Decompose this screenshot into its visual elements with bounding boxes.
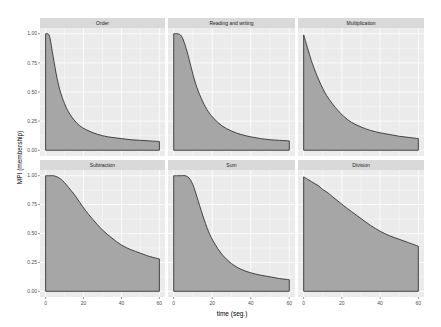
y-axis-title: MPI (membership) [16, 131, 24, 184]
x-tick-label: 0 [302, 300, 305, 306]
facet-strip-label: Subtraction [90, 162, 116, 168]
facet-strip-label: Order [96, 20, 109, 26]
x-tick-label: 40 [377, 300, 383, 306]
x-tick-label: 0 [44, 300, 47, 306]
facet-panel-subtraction: Subtraction0.000.250.500.751.000204060 [27, 160, 165, 306]
y-tick-label: 1.00 [27, 172, 37, 178]
facet-panel-sum: Sum0204060 [168, 160, 295, 306]
x-tick-label: 60 [287, 300, 293, 306]
x-tick-label: 60 [416, 300, 422, 306]
x-tick-label: 60 [157, 300, 163, 306]
facet-panel-multiplication: Multiplication [298, 18, 424, 156]
faceted-area-chart: Order0.000.250.500.751.00Reading and wri… [0, 0, 441, 327]
y-tick-label: 1.00 [27, 30, 37, 36]
y-tick-label: 0.50 [27, 230, 37, 236]
facet-strip-label: Reading and writing [209, 20, 253, 26]
facet-panel-division: Division0204060 [298, 160, 424, 306]
facet-strip-label: Division [352, 162, 370, 168]
y-tick-label: 0.50 [27, 89, 37, 95]
y-tick-label: 0.25 [27, 259, 37, 265]
x-tick-label: 40 [119, 300, 125, 306]
x-tick-label: 20 [339, 300, 345, 306]
x-tick-label: 20 [81, 300, 87, 306]
y-tick-label: 0.75 [27, 60, 37, 66]
x-tick-label: 40 [248, 300, 254, 306]
facet-panel-reading-and-writing: Reading and writing [168, 18, 295, 156]
y-tick-label: 0.00 [27, 288, 37, 294]
facet-strip-label: Sum [226, 162, 236, 168]
x-axis-title: time (seg.) [217, 310, 248, 318]
x-tick-label: 0 [172, 300, 175, 306]
y-tick-label: 0.00 [27, 147, 37, 153]
x-tick-label: 20 [209, 300, 215, 306]
facet-strip-label: Multiplication [347, 20, 376, 26]
y-tick-label: 0.75 [27, 201, 37, 207]
facet-panel-order: Order0.000.250.500.751.00 [27, 18, 165, 156]
y-tick-label: 0.25 [27, 118, 37, 124]
